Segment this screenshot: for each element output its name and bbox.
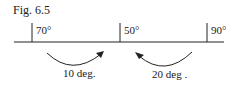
arrow-label-20: 20 deg . [152,68,187,80]
arrow-label-10: 10 deg. [63,67,95,79]
arrow-left-icon [135,52,192,66]
arrow-right-icon [47,51,104,65]
scale-diagram [0,0,242,92]
tick-label-90: 90° [211,24,226,36]
tick-label-70: 70° [36,24,51,36]
tick-label-50: 50° [124,24,139,36]
